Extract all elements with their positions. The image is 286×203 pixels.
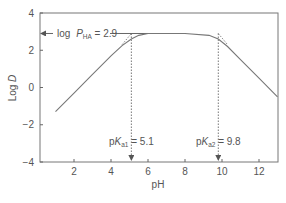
pKa2-label: pKa2 = 9.8 (196, 136, 241, 148)
x-tick-label: 12 (253, 166, 265, 177)
y-tick-label: 4 (28, 8, 34, 19)
x-axis-title: pH (152, 179, 165, 190)
x-tick-label: 6 (145, 166, 151, 177)
y-tick-label: −4 (23, 157, 35, 168)
x-tick-label: 8 (182, 166, 188, 177)
logp-suffix: = 2.9 (92, 28, 118, 39)
series-group (56, 33, 278, 111)
y-axis-title-d: D (7, 75, 18, 82)
pKa1-label: pKa1 = 5.1 (109, 136, 154, 148)
y-tick-label: 2 (28, 45, 34, 56)
x-tick-label: 10 (216, 166, 228, 177)
y-axis-title-log: Log (7, 82, 18, 101)
y-axis-title: Log D (7, 75, 18, 102)
pKa1-suffix: = 5.1 (128, 136, 154, 147)
annotations: log PHA = 2.9pKa1 = 5.1pKa2 = 9.8 (57, 28, 241, 148)
pKa2-suffix: = 9.8 (215, 136, 241, 147)
x-tick-label: 4 (108, 166, 114, 177)
y-tick-label: 0 (28, 82, 34, 93)
series-line (56, 33, 278, 111)
logp-label: log PHA = 2.9 (57, 28, 118, 40)
log-d-chart: 420−2−4 24681012 log PHA = 2.9pKa1 = 5.1… (0, 0, 286, 203)
x-tick-label: 2 (71, 166, 77, 177)
y-tick-label: −2 (23, 119, 35, 130)
logp-prefix: log (57, 28, 73, 39)
